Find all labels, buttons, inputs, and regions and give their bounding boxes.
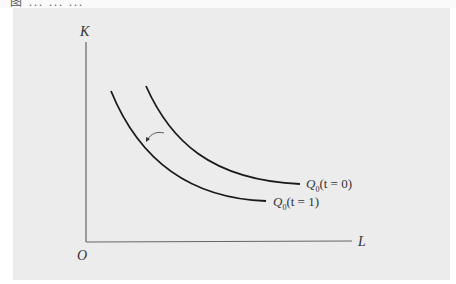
isoquant-diagram — [0, 0, 456, 284]
x-axis — [86, 241, 352, 242]
origin-label: O — [77, 248, 87, 264]
x-axis-label: L — [358, 234, 366, 250]
curve-label-t0: Q0(t = 0) — [306, 176, 352, 194]
y-axis-label: K — [80, 24, 89, 40]
shift-arrow-icon — [148, 132, 164, 139]
curve-label-t1: Q0(t = 1) — [273, 194, 319, 212]
